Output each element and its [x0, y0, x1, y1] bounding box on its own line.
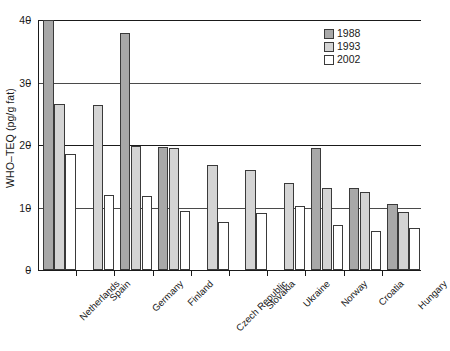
- legend-item-1993: 1993: [324, 40, 390, 53]
- y-tick-0: [26, 270, 31, 271]
- x-axis-category-labels: NetherlandsSpainGermanyFinlandCzech Repu…: [38, 276, 430, 351]
- bar-croatia-2002: [371, 231, 382, 270]
- legend-swatch-2002: [324, 55, 334, 65]
- bar-ukraine-2002: [295, 206, 306, 270]
- y-tick-30: [26, 83, 31, 84]
- bar-hungary-1993: [398, 212, 409, 270]
- bar-croatia-1993: [360, 192, 371, 270]
- bar-slovakia-1993: [245, 170, 256, 270]
- bar-netherlands-2002: [65, 154, 76, 270]
- x-label-hungary: Hungary: [416, 278, 449, 311]
- x-label-ukraine: Ukraine: [301, 278, 332, 309]
- bar-germany-1988: [120, 33, 131, 270]
- legend-swatch-1988: [324, 29, 334, 39]
- bar-finland-1993: [169, 148, 180, 270]
- bar-norway-1993: [322, 188, 333, 271]
- x-label-germany: Germany: [150, 278, 186, 314]
- bar-ukraine-1993: [284, 183, 295, 270]
- bar-slovakia-2002: [256, 213, 267, 271]
- chart-legend: 198819932002: [324, 27, 390, 66]
- bar-croatia-1988: [349, 188, 360, 270]
- bar-germany-1993: [131, 146, 142, 270]
- y-tick-10: [26, 208, 31, 209]
- bar-hungary-1988: [387, 204, 398, 270]
- bar-netherlands-1993: [54, 104, 65, 270]
- y-tick-20: [26, 145, 31, 146]
- x-label-norway: Norway: [339, 278, 370, 309]
- legend-item-1988: 1988: [324, 27, 390, 40]
- y-tick-40: [26, 20, 31, 21]
- bar-finland-1988: [158, 147, 169, 270]
- bar-hungary-2002: [409, 228, 420, 270]
- bar-czech-republic-1993: [207, 165, 218, 270]
- bar-spain-1993: [93, 105, 104, 270]
- bar-czech-republic-2002: [218, 222, 229, 270]
- legend-label-1993: 1993: [337, 41, 360, 52]
- x-label-finland: Finland: [185, 278, 215, 308]
- bar-finland-2002: [180, 211, 191, 270]
- bar-germany-2002: [142, 196, 153, 270]
- bar-spain-2002: [104, 195, 115, 270]
- bar-norway-2002: [333, 225, 344, 270]
- y-axis-tick-labels: 010203040: [0, 20, 31, 270]
- bar-netherlands-1988: [43, 20, 54, 270]
- legend-label-2002: 2002: [337, 54, 360, 65]
- legend-item-2002: 2002: [324, 53, 390, 66]
- x-label-croatia: Croatia: [376, 278, 406, 308]
- legend-label-1988: 1988: [337, 28, 360, 39]
- bar-norway-1988: [311, 148, 322, 271]
- legend-swatch-1993: [324, 42, 334, 52]
